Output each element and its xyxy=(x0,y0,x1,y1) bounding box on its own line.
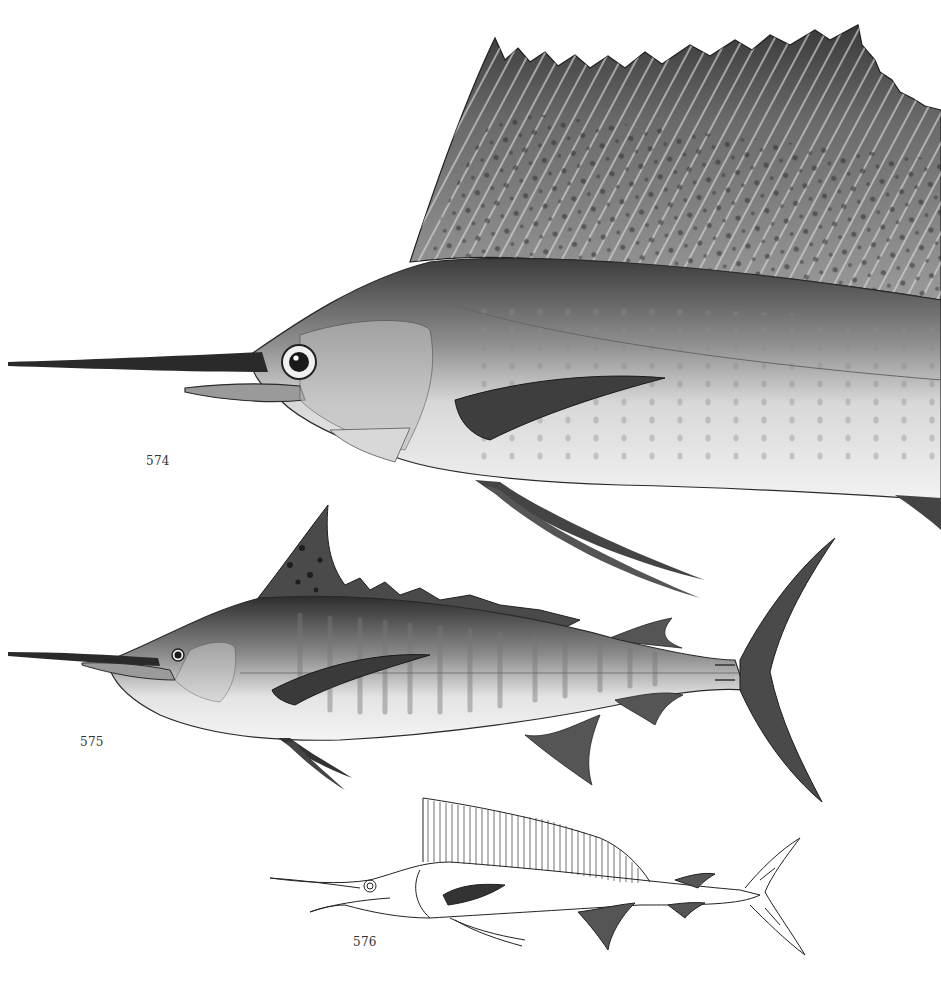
fish-575-marlin xyxy=(8,505,835,802)
marlin-caudal-fin xyxy=(740,538,835,802)
fish-574-sailfish xyxy=(8,25,941,598)
pelvic-fins xyxy=(475,480,705,580)
figure-label-576: 576 xyxy=(353,935,377,949)
figure-label-574: 574 xyxy=(146,454,170,468)
fish-576-outline xyxy=(270,798,805,955)
bill xyxy=(8,352,268,372)
figure-label-575: 575 xyxy=(80,735,104,749)
fish-illustrations xyxy=(0,0,941,985)
illustration-plate: 574 575 576 xyxy=(0,0,941,985)
outline-tail xyxy=(745,838,805,955)
